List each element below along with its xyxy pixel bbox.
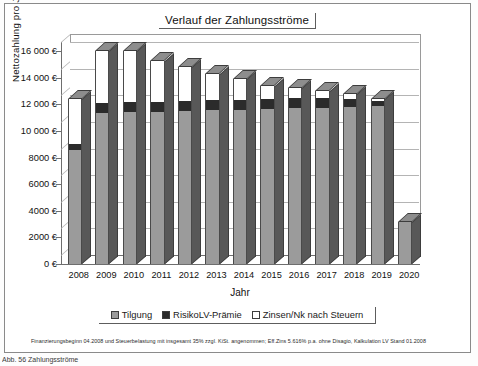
legend-item-label: Zinsen/Nk nach Steuern bbox=[263, 309, 364, 320]
y-axis-tick-mark bbox=[56, 237, 61, 238]
bar-side-face bbox=[247, 71, 256, 264]
bar-segment-zinsen-2017[interactable] bbox=[315, 91, 329, 98]
bar-segment-tilgung-2008[interactable] bbox=[68, 150, 82, 264]
bar-segment-zinsen-2015[interactable] bbox=[260, 86, 274, 99]
chart-title: Verlauf der Zahlungsströme bbox=[5, 13, 470, 29]
bar-segment-zinsen-2016[interactable] bbox=[288, 88, 302, 98]
x-axis-tick-label: 2012 bbox=[179, 270, 199, 280]
bar-segment-tilgung-2015[interactable] bbox=[260, 109, 274, 264]
bar-segment-zinsen-2011[interactable] bbox=[150, 61, 164, 102]
figure-caption: Abb. 56 Zahlungsströme bbox=[2, 356, 202, 365]
bar-side-face bbox=[82, 91, 91, 264]
y-axis-tick-mark bbox=[56, 51, 61, 52]
legend-item-label: RisikoLV-Prämie bbox=[173, 309, 242, 320]
y-axis-tick-mark bbox=[56, 211, 61, 212]
x-axis-tick-label: 2015 bbox=[261, 270, 281, 280]
legend-item-2[interactable]: RisikoLV-Prämie bbox=[162, 309, 242, 320]
bar-segment-zinsen-2014[interactable] bbox=[233, 79, 247, 100]
bar-segment-risiko-2015[interactable] bbox=[260, 99, 274, 109]
bar-segment-tilgung-2018[interactable] bbox=[343, 107, 357, 264]
plot-area: 0 €2000 €4000 €6000 €8000 €10 000 €12 00… bbox=[61, 42, 419, 264]
bar-segment-risiko-2019[interactable] bbox=[371, 101, 385, 106]
bar-side-face bbox=[109, 43, 118, 264]
bar-segment-tilgung-2019[interactable] bbox=[371, 106, 385, 264]
y-axis-tick-mark bbox=[56, 131, 61, 132]
x-axis-tick-label: 2013 bbox=[206, 270, 226, 280]
y-axis-tick-mark bbox=[56, 104, 61, 105]
bar-side-face bbox=[357, 86, 366, 264]
bar-segment-zinsen-2012[interactable] bbox=[178, 67, 192, 101]
chart-footnote: Finanzierungsbeginn 04.2008 und Steuerbe… bbox=[31, 338, 461, 344]
y-axis-tick-label: 2000 € bbox=[29, 232, 57, 242]
x-axis-tick-label: 2010 bbox=[124, 270, 144, 280]
bar-segment-tilgung-2014[interactable] bbox=[233, 110, 247, 264]
y-axis-tick-label: 14 000 € bbox=[21, 73, 57, 83]
bar-segment-risiko-2017[interactable] bbox=[315, 98, 329, 107]
bar-segment-risiko-2012[interactable] bbox=[178, 101, 192, 111]
bar-side-face bbox=[302, 80, 311, 264]
y-axis-tick-label: 10 000 € bbox=[21, 126, 57, 136]
y-axis-tick-label: 16 000 € bbox=[21, 46, 57, 56]
x-axis-tick-label: 2008 bbox=[69, 270, 89, 280]
bar-2019[interactable] bbox=[371, 99, 385, 264]
bar-segment-tilgung-2017[interactable] bbox=[315, 108, 329, 264]
legend-item-label: Tilgung bbox=[122, 309, 152, 320]
bar-2014[interactable] bbox=[233, 79, 247, 264]
bar-2008[interactable] bbox=[68, 99, 82, 264]
bar-2012[interactable] bbox=[178, 67, 192, 264]
legend-swatch-icon bbox=[162, 311, 170, 319]
bar-segment-tilgung-2013[interactable] bbox=[205, 110, 219, 264]
bar-side-face bbox=[220, 66, 229, 264]
x-axis-tick-label: 2009 bbox=[96, 270, 116, 280]
bar-side-face bbox=[330, 83, 339, 264]
legend-swatch-icon bbox=[252, 311, 260, 319]
bar-segment-tilgung-2010[interactable] bbox=[123, 112, 137, 264]
bar-segment-zinsen-2013[interactable] bbox=[205, 74, 219, 101]
bar-2020[interactable] bbox=[398, 222, 412, 264]
y-axis-tick-mark bbox=[56, 184, 61, 185]
legend-item-3[interactable]: Zinsen/Nk nach Steuern bbox=[252, 309, 364, 320]
bar-2013[interactable] bbox=[205, 74, 219, 264]
bar-segment-zinsen-2010[interactable] bbox=[123, 51, 137, 102]
bar-segment-risiko-2008[interactable] bbox=[68, 144, 82, 149]
y-axis-tick-label: 4000 € bbox=[29, 206, 57, 216]
bar-segment-risiko-2011[interactable] bbox=[150, 102, 164, 112]
y-axis-title: Nettozahlung pro Jahr bbox=[10, 0, 21, 82]
bar-2015[interactable] bbox=[260, 86, 274, 264]
x-axis-tick-label: 2017 bbox=[316, 270, 336, 280]
bar-2016[interactable] bbox=[288, 88, 302, 264]
bar-segment-zinsen-2009[interactable] bbox=[95, 51, 109, 103]
bar-side-face bbox=[192, 59, 201, 264]
bar-segment-risiko-2010[interactable] bbox=[123, 102, 137, 112]
bar-side-face bbox=[275, 78, 284, 264]
bar-segment-risiko-2016[interactable] bbox=[288, 98, 302, 108]
bar-segment-zinsen-2018[interactable] bbox=[343, 94, 357, 99]
x-axis-tick-label: 2016 bbox=[289, 270, 309, 280]
bar-segment-zinsen-2019[interactable] bbox=[371, 99, 385, 101]
y-axis-tick-label: 12 000 € bbox=[21, 99, 57, 109]
bar-segment-tilgung-2020[interactable] bbox=[398, 222, 412, 264]
bar-side-face bbox=[165, 53, 174, 264]
bar-segment-risiko-2013[interactable] bbox=[205, 100, 219, 110]
legend-item-1[interactable]: Tilgung bbox=[111, 309, 152, 320]
bar-segment-zinsen-2008[interactable] bbox=[68, 99, 82, 144]
bar-2018[interactable] bbox=[343, 94, 357, 264]
bar-side-face bbox=[385, 91, 394, 264]
bar-segment-tilgung-2016[interactable] bbox=[288, 108, 302, 264]
y-axis-tick-label: 6000 € bbox=[29, 179, 57, 189]
chart-legend: TilgungRisikoLV-PrämieZinsen/Nk nach Ste… bbox=[5, 304, 470, 324]
bar-side-face bbox=[412, 214, 421, 264]
bar-2011[interactable] bbox=[150, 61, 164, 264]
legend-swatch-icon bbox=[111, 311, 119, 319]
bar-segment-risiko-2018[interactable] bbox=[343, 99, 357, 107]
bar-2017[interactable] bbox=[315, 91, 329, 264]
gridline bbox=[70, 42, 419, 43]
bar-segment-tilgung-2009[interactable] bbox=[95, 113, 109, 264]
y-axis-tick-label: 8000 € bbox=[29, 153, 57, 163]
bar-segment-risiko-2014[interactable] bbox=[233, 100, 247, 110]
bar-segment-tilgung-2012[interactable] bbox=[178, 111, 192, 264]
bar-segment-tilgung-2011[interactable] bbox=[150, 112, 164, 264]
bar-2010[interactable] bbox=[123, 51, 137, 264]
bar-2009[interactable] bbox=[95, 51, 109, 264]
bar-segment-risiko-2009[interactable] bbox=[95, 103, 109, 113]
